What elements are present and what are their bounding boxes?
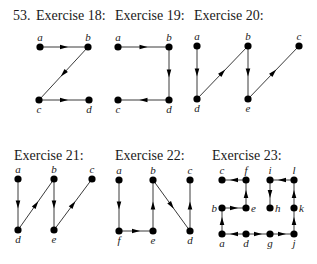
- vertex-b: [165, 43, 172, 50]
- vertex-label: i: [268, 164, 271, 176]
- edge-a-b: [220, 208, 225, 234]
- vertex-label: d: [194, 102, 200, 114]
- arrowhead-icon: [167, 70, 172, 78]
- edge-b-c: [39, 47, 88, 100]
- arrowhead-icon: [195, 69, 200, 77]
- vertex-label: c: [90, 163, 95, 175]
- vertex-label: c: [188, 164, 193, 176]
- arrowhead-icon: [52, 201, 57, 209]
- vertex-label: a: [115, 31, 121, 43]
- vertex-label: d: [187, 234, 193, 246]
- edge-d-c: [118, 98, 169, 103]
- vertex-b: [50, 175, 57, 182]
- vertex-c: [295, 42, 302, 49]
- vertex-label: c: [220, 164, 225, 176]
- exercise-22-graph: Exercise 22:abcfed: [115, 148, 194, 246]
- vertex-label: d: [15, 233, 21, 245]
- edge-a-d: [16, 179, 21, 230]
- arrowhead-icon: [220, 217, 225, 225]
- edge-j-k: [292, 208, 297, 234]
- edge-b-d: [153, 180, 190, 231]
- arrowhead-icon: [292, 217, 297, 225]
- edge-a-b: [40, 45, 88, 50]
- arrowhead-icon: [278, 232, 286, 237]
- vertex-e: [242, 204, 249, 211]
- arrowhead-icon: [60, 45, 68, 50]
- arrowhead-icon: [140, 98, 148, 103]
- edge-e-c: [54, 179, 92, 230]
- vertex-a: [115, 176, 122, 183]
- vertex-b: [84, 43, 91, 50]
- arrowhead-icon: [117, 202, 122, 210]
- vertex-label: a: [219, 237, 225, 249]
- edge-b-d: [167, 47, 172, 100]
- vertex-k: [290, 204, 297, 211]
- exercise-title: Exercise 20:: [194, 8, 264, 23]
- vertex-label: b: [212, 202, 218, 214]
- vertex-label: b: [166, 31, 172, 43]
- vertex-label: b: [150, 164, 156, 176]
- problem-number: 53.: [13, 8, 31, 23]
- vertex-label: l: [292, 164, 295, 176]
- directed-graph-exercises: 53. Exercise 18:abcdExercise 19:abcdExer…: [0, 0, 317, 264]
- arrowhead-icon: [16, 201, 21, 209]
- edge-b-e: [222, 206, 246, 211]
- edge-f-e: [119, 229, 153, 234]
- vertex-label: a: [116, 164, 122, 176]
- graphs-container: Exercise 18:abcdExercise 19:abcdExercise…: [14, 8, 305, 249]
- exercise-21-graph: Exercise 21:abcde: [14, 148, 96, 245]
- edge-b-e: [246, 46, 251, 99]
- arrowhead-icon: [246, 69, 251, 77]
- vertex-label: e: [151, 234, 156, 246]
- arrowhead-icon: [244, 190, 249, 198]
- exercise-title: Exercise 22:: [115, 148, 185, 163]
- vertex-label: c: [37, 103, 42, 115]
- arrowhead-icon: [32, 200, 40, 209]
- arrowhead-icon: [230, 232, 238, 237]
- vertex-l: [290, 176, 297, 183]
- arrowhead-icon: [254, 232, 262, 237]
- arrowhead-icon: [188, 202, 193, 210]
- vertex-label: g: [267, 237, 273, 249]
- vertex-b: [244, 42, 251, 49]
- vertex-label: j: [290, 237, 295, 249]
- edge-c-d: [39, 98, 89, 103]
- edge-k-l: [292, 180, 297, 208]
- vertex-a: [14, 175, 21, 182]
- exercise-title: Exercise 23:: [212, 148, 282, 163]
- exercise-23-graph: Exercise 23:cfilbehkadgj: [212, 148, 306, 249]
- arrowhead-icon: [60, 98, 68, 103]
- vertex-label: c: [116, 103, 121, 115]
- edge-b-e: [52, 179, 57, 230]
- vertex-f: [242, 176, 249, 183]
- edge-i-h: [268, 180, 273, 208]
- vertex-label: b: [51, 163, 57, 175]
- vertex-label: f: [117, 234, 122, 246]
- exercise-20-graph: Exercise 20:abcde: [193, 8, 302, 114]
- vertex-label: a: [194, 30, 200, 42]
- exercise-title: Exercise 21:: [14, 148, 84, 163]
- edge-d-c: [188, 180, 193, 231]
- arrowhead-icon: [268, 190, 273, 198]
- vertex-i: [266, 176, 273, 183]
- arrowhead-icon: [140, 45, 148, 50]
- vertex-h: [266, 204, 273, 211]
- vertex-c: [88, 175, 95, 182]
- vertex-label: d: [86, 103, 92, 115]
- vertex-label: a: [37, 31, 43, 43]
- edge-a-d: [195, 46, 200, 99]
- vertex-label: h: [275, 202, 281, 214]
- edge-e-b: [151, 180, 156, 231]
- edge-d-a: [222, 232, 246, 237]
- vertex-label: e: [52, 233, 57, 245]
- exercise-19-graph: Exercise 19:abcd: [114, 8, 184, 115]
- exercise-18-graph: Exercise 18:abcd: [35, 8, 105, 115]
- vertex-label: b: [245, 30, 251, 42]
- arrowhead-icon: [230, 206, 238, 211]
- exercise-title: Exercise 18:: [36, 8, 106, 23]
- edge-e-f: [244, 180, 249, 208]
- arrowhead-icon: [230, 178, 238, 183]
- arrowhead-icon: [278, 178, 286, 183]
- vertex-label: e: [246, 102, 251, 114]
- vertex-label: f: [244, 164, 249, 176]
